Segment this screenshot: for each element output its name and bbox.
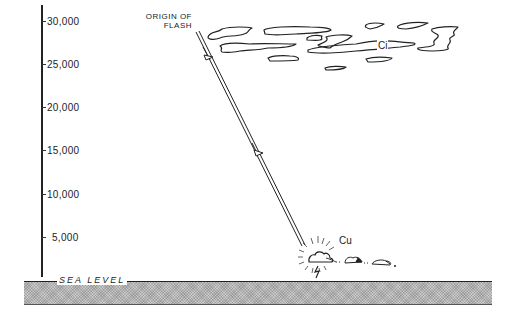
cirrus-label: Ci — [377, 40, 388, 51]
cumulus-label: Cu — [339, 235, 352, 246]
lightning-path-icon — [196, 31, 305, 246]
diagram-drawing — [0, 0, 509, 327]
cumulus-clouds-icon — [336, 257, 396, 266]
cirrus-clouds-icon — [208, 22, 458, 70]
